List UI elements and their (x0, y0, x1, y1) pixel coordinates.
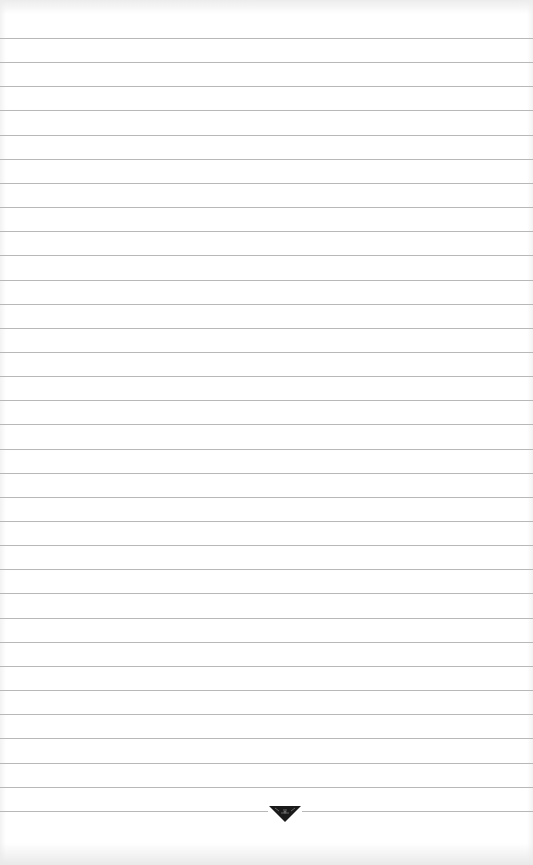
ruled-line (0, 255, 533, 256)
ruled-line (0, 207, 533, 208)
ruled-line (0, 642, 533, 643)
ruled-line (0, 618, 533, 619)
ruled-line (0, 183, 533, 184)
ruled-line (0, 497, 533, 498)
ruled-line (0, 280, 533, 281)
ruled-line (0, 86, 533, 87)
ruled-line (0, 352, 533, 353)
ruled-line (0, 38, 533, 39)
ruled-line (302, 811, 533, 812)
ruled-line (0, 135, 533, 136)
ruled-line (0, 159, 533, 160)
lined-paper-page (0, 0, 533, 865)
down-triangle-ornament-icon (269, 804, 301, 822)
ruled-line (0, 231, 533, 232)
ruled-line (0, 473, 533, 474)
ruled-line (0, 593, 533, 594)
top-edge-shadow (0, 0, 533, 14)
ruled-line (0, 304, 533, 305)
ruled-line (0, 449, 533, 450)
ruled-line (0, 424, 533, 425)
ruled-line (0, 763, 533, 764)
ruled-line (0, 569, 533, 570)
ruled-line (0, 400, 533, 401)
bottom-edge-shadow (0, 843, 533, 865)
ruled-line (0, 545, 533, 546)
ruled-line (0, 811, 268, 812)
ruled-line (0, 714, 533, 715)
ruled-line (0, 110, 533, 111)
ruled-line (0, 62, 533, 63)
ruled-line (0, 521, 533, 522)
ruled-line (0, 738, 533, 739)
ruled-line (0, 328, 533, 329)
ruled-line (0, 376, 533, 377)
ruled-line (0, 666, 533, 667)
ruled-line (0, 690, 533, 691)
ruled-line (0, 787, 533, 788)
